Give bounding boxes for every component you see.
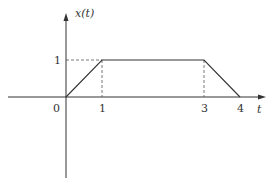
tick-label-3: 3: [201, 102, 208, 115]
tick-label-1: 1: [99, 102, 106, 115]
trapezoid-signal-diagram: x(t) t 0 1 3 4 1: [0, 0, 272, 189]
y-tick-label-1: 1: [54, 54, 61, 67]
signal-curve: [66, 60, 240, 97]
y-axis-label: x(t): [75, 7, 94, 20]
x-axis-arrow-icon: [258, 95, 266, 100]
y-axis-arrow-icon: [64, 13, 69, 21]
tick-label-4: 4: [237, 102, 244, 115]
origin-label: 0: [53, 102, 60, 115]
x-axis-label: t: [257, 103, 262, 116]
